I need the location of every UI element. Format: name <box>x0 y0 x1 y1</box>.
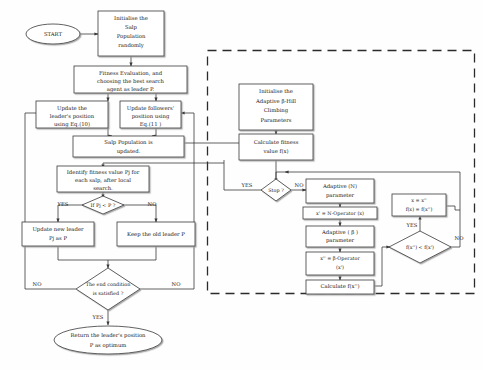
node-keep-old-leader-line1: Keep the old leader P <box>127 231 185 238</box>
edge-label-if-pj-yes: YES <box>57 201 69 207</box>
node-start: START <box>26 24 80 44</box>
node-keep-old-leader: Keep the old leader P <box>117 222 195 246</box>
node-calc-fx-line2: value f(x) <box>262 148 288 154</box>
node-update-new-leader-line2: Pj as P <box>49 235 67 242</box>
node-end-condition-line2: is satisfied ? <box>93 290 124 296</box>
flowchart-svg: START Initialise the Salp Population ran… <box>0 0 483 370</box>
node-update-followers-line3: Eq.(11 ) <box>140 121 162 128</box>
edge-label-end-yes: YES <box>92 314 104 320</box>
node-assign: x = x'' f(x) = f(x'') <box>392 194 446 216</box>
node-init-salp-line1: Initialise the <box>114 15 148 21</box>
node-adaptive-beta-line1: Adaptive ( β ) <box>321 229 358 236</box>
node-end-condition: The end condition is satisfied ? <box>76 268 140 310</box>
node-identify-fitness: Identify fitness value Pj for each salp,… <box>57 166 149 192</box>
node-compare: f(x'') < f(x') <box>389 231 451 263</box>
edge-label-compare-yes: YES <box>406 222 418 228</box>
node-init-bhc-line4: Parameters <box>261 117 292 123</box>
node-salp-updated: Salp Population is updated. <box>73 136 184 157</box>
node-assign-line1: x = x'' <box>411 197 426 203</box>
node-update-followers-line2: position using <box>132 113 170 120</box>
node-beta-operator-line1: x'' = β-Operator <box>320 255 360 262</box>
node-update-leader-line1: Update the <box>57 105 87 112</box>
node-init-bhc: Initialise the Adaptive β-Hill Climbing … <box>239 84 313 130</box>
node-init-salp-line4: randomly <box>118 42 143 49</box>
node-identify-fitness-line3: search. <box>93 185 113 191</box>
edge-label-if-pj-no: NO <box>148 201 157 207</box>
node-return-leader-line2: P as optimum <box>90 342 127 349</box>
node-init-bhc-line3: Climbing <box>264 107 289 114</box>
edge-label-end-no-right: NO <box>172 281 181 287</box>
node-salp-updated-line2: updated. <box>117 148 141 155</box>
node-fitness-evaluation-line1: Fitness Evaluation, and <box>99 70 163 76</box>
node-calc-fx-line1: Calculate fitness <box>254 139 299 145</box>
node-calc-fx2: Calculate f(x'') <box>306 280 374 294</box>
node-update-leader-line2: leader's position <box>50 113 95 120</box>
node-assign-line2: f(x) = f(x'') <box>406 206 433 212</box>
node-calc-fx: Calculate fitness value f(x) <box>239 134 313 160</box>
node-init-salp-line2: Salp <box>125 24 137 31</box>
node-return-leader-line1: Return the leader's position <box>71 332 147 339</box>
node-update-new-leader: Update new leader Pj as P <box>22 222 94 246</box>
node-compare-label: f(x'') < f(x') <box>406 244 434 250</box>
node-update-new-leader-line1: Update new leader <box>32 226 84 233</box>
edge-label-stop-yes: YES <box>241 182 253 188</box>
node-stop: Stop ? <box>261 179 291 201</box>
node-init-salp-line3: Population <box>117 33 146 40</box>
node-init-bhc-line1: Initialise the <box>259 88 293 94</box>
node-stop-label: Stop ? <box>268 187 284 194</box>
node-beta-operator-line2: (x') <box>336 264 344 270</box>
node-update-followers-line1: Update followers' <box>127 105 174 112</box>
node-start-label: START <box>44 31 63 37</box>
edge-label-end-no-left: NO <box>33 281 42 287</box>
node-fitness-evaluation: Fitness Evaluation, and choosing the bes… <box>74 66 187 93</box>
node-adaptive-beta-line2: parameter <box>326 237 355 244</box>
node-return-leader: Return the leader's position P as optimu… <box>54 326 162 354</box>
node-beta-operator: x'' = β-Operator (x') <box>306 252 374 275</box>
node-end-condition-line1: The end condition <box>86 281 132 287</box>
node-salp-updated-line1: Salp Population is <box>104 139 153 146</box>
node-init-bhc-line2: Adaptive β-Hill <box>255 98 296 105</box>
node-update-followers: Update followers' position using Eq.(11 … <box>120 101 181 128</box>
edge-label-compare-no: NO <box>455 235 464 241</box>
node-update-leader-line3: using Eq.(10) <box>54 121 90 128</box>
node-identify-fitness-line2: each salp, after local <box>75 177 131 184</box>
node-fitness-evaluation-line3: agent as leader P. <box>107 86 155 93</box>
node-if-pj: If Pj < P ? <box>82 196 124 214</box>
node-adaptive-n-line1: Adaptive (N) <box>322 183 357 190</box>
node-identify-fitness-line1: Identify fitness value Pj for <box>67 169 140 176</box>
node-init-salp: Initialise the Salp Population randomly <box>98 11 164 56</box>
node-n-operator: x' = N-Operator (x) <box>303 207 377 219</box>
node-adaptive-beta: Adaptive ( β ) parameter <box>306 226 374 247</box>
node-update-leader: Update the leader's position using Eq.(1… <box>36 101 108 128</box>
node-adaptive-n-line2: parameter <box>326 192 355 199</box>
node-adaptive-n: Adaptive (N) parameter <box>306 179 374 203</box>
node-calc-fx2-line1: Calculate f(x'') <box>320 283 359 289</box>
flowchart-canvas: START Initialise the Salp Population ran… <box>0 0 483 370</box>
node-fitness-evaluation-line2: choosing the best search <box>97 78 165 85</box>
node-n-operator-line1: x' = N-Operator (x) <box>316 210 364 217</box>
node-if-pj-label: If Pj < P ? <box>91 202 116 209</box>
edge-label-stop-no: NO <box>295 182 304 188</box>
